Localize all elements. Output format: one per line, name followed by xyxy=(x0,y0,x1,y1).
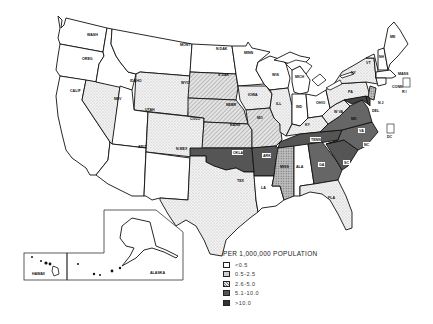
label-ndak: N DAK xyxy=(216,47,228,51)
label-hawaii: HAWAII xyxy=(32,272,45,276)
legend-item: 2.6-5.0 xyxy=(223,279,363,289)
swatch-dark-solid xyxy=(223,300,230,306)
label-dc: DC xyxy=(387,135,393,139)
legend-item: >10.0 xyxy=(223,298,363,308)
label-oreg: OREG xyxy=(82,57,93,61)
label-sdak: S DAK xyxy=(218,73,230,77)
label-nmex: N MEX xyxy=(176,147,188,151)
label-ny: NY xyxy=(351,71,357,75)
label-wyo: WYO xyxy=(181,81,190,85)
label-idaho: IDAHO xyxy=(130,79,142,83)
state-kans xyxy=(202,122,252,148)
label-va: VA xyxy=(359,129,364,133)
legend-item: <0.5 xyxy=(223,260,363,270)
label-kans: KANS xyxy=(230,123,241,127)
state-alaska xyxy=(120,218,178,266)
label-ala: ALA xyxy=(296,165,304,169)
swatch-diagonal-hatch xyxy=(223,281,230,287)
aleutian-islands xyxy=(77,263,121,276)
ri-inset-box xyxy=(403,78,410,87)
label-ri: R I xyxy=(402,90,407,94)
label-conn: CONN xyxy=(392,85,403,89)
label-ky: KY xyxy=(305,123,311,127)
swatch-blank xyxy=(223,262,230,268)
us-choropleth-map: WASH OREG CALIF NEV IDAHO MONT WYO UTAH … xyxy=(0,0,433,324)
state-mass xyxy=(376,70,396,78)
label-sc: SC xyxy=(344,161,349,165)
hawaii-inset-frame xyxy=(24,253,67,280)
label-utah: UTAH xyxy=(145,108,155,112)
label-nj: N J xyxy=(378,101,384,105)
state-me xyxy=(384,22,408,70)
legend-item: 5.1-10.0 xyxy=(223,289,363,299)
label-nc: NC xyxy=(364,143,370,147)
state-ndak xyxy=(190,44,236,74)
legend-item: 0.5-2.5 xyxy=(223,270,363,280)
label-colo: COLO xyxy=(190,117,201,121)
label-ga: GA xyxy=(319,163,325,167)
label-del: DEL xyxy=(372,109,380,113)
label-iowa: IOWA xyxy=(248,93,258,97)
legend-label: 0.5-2.5 xyxy=(235,271,256,277)
state-ny xyxy=(334,58,378,84)
legend-label: 5.1-10.0 xyxy=(235,290,259,296)
label-minn: MINN xyxy=(244,51,254,55)
label-nebr: NEBR xyxy=(226,103,237,107)
legend-label: <0.5 xyxy=(235,262,248,268)
label-alaska: ALASKA xyxy=(150,271,165,275)
label-mont: MONT xyxy=(180,43,191,47)
label-ill: ILL xyxy=(276,102,282,106)
label-calif: CALIF xyxy=(70,89,81,93)
label-mo: MO xyxy=(257,116,263,120)
label-pa: PA xyxy=(348,90,353,94)
map-legend: PER 1,000,000 POPULATION <0.5 0.5-2.5 2.… xyxy=(223,250,363,308)
state-wyo xyxy=(134,72,190,116)
state-fla xyxy=(300,180,352,230)
label-mass: MASS xyxy=(398,72,409,76)
swatch-light-dots xyxy=(223,271,230,277)
label-wis: WIS xyxy=(272,73,279,77)
label-nh: NH xyxy=(379,55,385,59)
label-miss: MISS xyxy=(280,165,289,169)
legend-label: >10.0 xyxy=(235,300,251,306)
dc-inset-box xyxy=(387,124,394,133)
legend-title: PER 1,000,000 POPULATION xyxy=(223,250,363,257)
label-wash: WASH xyxy=(87,33,98,37)
label-nev: NEV xyxy=(114,97,122,101)
label-tex: TEX xyxy=(237,179,245,183)
state-sdak xyxy=(188,72,238,100)
label-tenn: TENN xyxy=(311,138,321,142)
label-md: MD xyxy=(351,117,357,121)
label-ariz: ARIZ xyxy=(138,145,147,149)
label-mich: MICH xyxy=(295,75,305,79)
label-fla: FLA xyxy=(328,196,335,200)
label-ind: IND xyxy=(296,105,303,109)
label-me: ME xyxy=(390,35,396,39)
label-okla: OKLA xyxy=(233,151,244,155)
label-vt: VT xyxy=(366,61,371,65)
state-iowa xyxy=(238,86,272,110)
label-la: LA xyxy=(261,186,266,190)
state-nmex xyxy=(144,152,190,200)
legend-label: 2.6-5.0 xyxy=(235,281,256,287)
label-ark: ARK xyxy=(263,154,271,158)
swatch-dense-dots xyxy=(223,290,230,296)
label-wva: W VA xyxy=(334,110,344,114)
label-ohio: OHIO xyxy=(316,101,325,105)
state-conn xyxy=(376,78,386,86)
